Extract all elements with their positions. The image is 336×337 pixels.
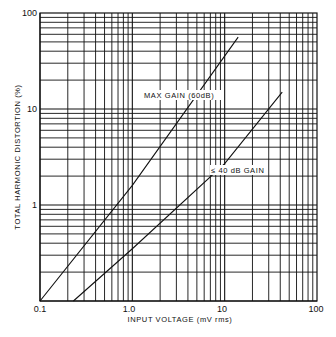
y-tick-10: 10	[27, 104, 37, 114]
curve-1	[40, 37, 238, 301]
x-tick-100: 100	[308, 304, 323, 314]
y-tick-1: 1	[32, 200, 37, 210]
x-tick-10: 10	[217, 304, 227, 314]
curve1-label: MAX GAIN (60dB)	[144, 91, 214, 100]
thd-chart: 0.1 1.0 10 100 100 10 1 INPUT VOLTAGE (m…	[0, 0, 336, 337]
y-tick-100: 100	[22, 8, 37, 18]
x-tick-0.1: 0.1	[34, 304, 47, 314]
grid	[40, 13, 317, 301]
plot-frame	[40, 13, 317, 301]
y-axis-label: TOTAL HARMONIC DISTORTION (%)	[13, 84, 22, 229]
x-axis-label: INPUT VOLTAGE (mV rms)	[128, 315, 233, 324]
curve2-label: ≤ 40 dB GAIN	[211, 166, 264, 175]
x-tick-1: 1.0	[123, 304, 136, 314]
